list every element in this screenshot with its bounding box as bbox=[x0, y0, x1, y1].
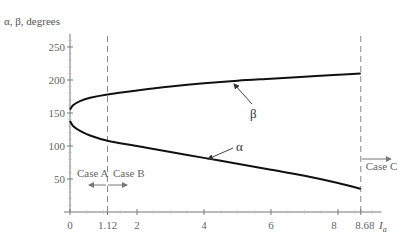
x-tick-label: 2 bbox=[134, 219, 140, 231]
beta-leader-arrow bbox=[234, 84, 252, 104]
case-c-label: Case C bbox=[366, 160, 397, 172]
x-tick-label: 8.68 bbox=[355, 219, 375, 231]
x-tick-label: 0 bbox=[67, 219, 73, 231]
x-tick-label: 8 bbox=[331, 219, 337, 231]
x-tick-label: 4 bbox=[201, 219, 207, 231]
axes: 5010015020025001.1224688.68α, β, degrees… bbox=[4, 15, 387, 234]
y-tick-label: 250 bbox=[49, 41, 66, 53]
x-axis-title: Ia bbox=[378, 219, 387, 234]
x-axis-subscript: a bbox=[383, 225, 387, 234]
x-tick-label: 1.12 bbox=[98, 219, 117, 231]
case-a-label: Case A bbox=[77, 167, 109, 179]
alpha-leader-arrow bbox=[208, 148, 233, 159]
series-line-beta bbox=[70, 73, 361, 109]
y-tick-label: 200 bbox=[49, 74, 66, 86]
case-b-label: Case B bbox=[113, 167, 144, 179]
y-tick-label: 100 bbox=[49, 140, 66, 152]
alpha-label: α bbox=[236, 139, 243, 154]
annotations: βαCase ACase BCase C bbox=[77, 84, 397, 185]
x-tick-label: 6 bbox=[268, 219, 274, 231]
chart: 5010015020025001.1224688.68α, β, degrees… bbox=[0, 0, 402, 243]
y-axis-title: α, β, degrees bbox=[4, 15, 60, 27]
y-tick-label: 50 bbox=[54, 173, 66, 185]
case-boundaries bbox=[108, 34, 361, 212]
beta-label: β bbox=[250, 106, 257, 121]
y-tick-label: 150 bbox=[49, 107, 66, 119]
